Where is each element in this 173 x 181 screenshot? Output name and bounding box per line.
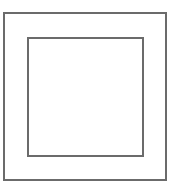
inner-square (27, 37, 144, 157)
